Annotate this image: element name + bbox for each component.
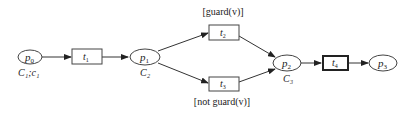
place-annotation: C₁;c₁ bbox=[18, 67, 39, 78]
guard-label-t2: [guard(v)] bbox=[202, 6, 243, 18]
place-p2: p2 C₃ bbox=[273, 55, 301, 84]
place-p3: p3 bbox=[369, 55, 397, 71]
arc-t3-p2 bbox=[239, 69, 275, 82]
guard-label-t3: [not guard(v)] bbox=[194, 96, 250, 108]
place-p1: p1 C₂ bbox=[130, 49, 160, 78]
arc-t2-p2 bbox=[239, 36, 275, 57]
place-annotation: C₂ bbox=[140, 67, 151, 78]
petri-net-diagram: p0 C₁;c₁ t1 p1 C₂ [guard(v)] t2 t3 [not … bbox=[0, 0, 412, 114]
transition-t3: t3 bbox=[209, 77, 239, 91]
arc-p1-t3 bbox=[158, 63, 208, 83]
arc-p1-t2 bbox=[158, 33, 208, 51]
transition-t2: t2 bbox=[209, 25, 239, 40]
place-p0: p0 C₁;c₁ bbox=[18, 50, 42, 78]
transition-t4: t4 bbox=[323, 56, 348, 70]
place-annotation: C₃ bbox=[283, 73, 294, 84]
transition-t1: t1 bbox=[72, 49, 102, 64]
